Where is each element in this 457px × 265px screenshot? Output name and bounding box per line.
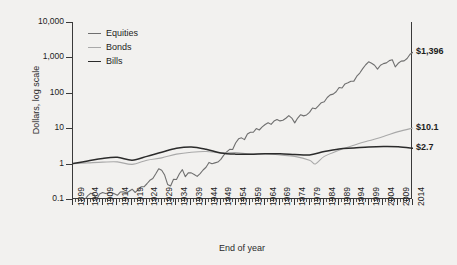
x-tick-label: 1944 — [209, 187, 219, 206]
legend-swatch-icon — [88, 33, 101, 34]
x-tick-label: 1904 — [90, 187, 100, 206]
x-major-tick — [131, 199, 132, 205]
x-major-tick — [87, 199, 88, 205]
x-tick-label: 1974 — [297, 187, 307, 206]
x-tick-label: 1934 — [179, 187, 189, 206]
x-major-tick — [294, 199, 295, 205]
x-major-tick — [249, 199, 250, 205]
x-major-tick — [146, 199, 147, 205]
x-major-tick — [175, 199, 176, 205]
legend-label: Bonds — [106, 41, 132, 53]
series-line-bills — [73, 146, 413, 163]
x-tick-label: 1909 — [105, 187, 115, 206]
x-tick-label: 1979 — [312, 187, 322, 206]
legend-label: Bills — [106, 55, 123, 67]
x-tick-label: 1984 — [327, 187, 337, 206]
x-major-tick — [368, 199, 369, 205]
x-major-tick — [190, 199, 191, 205]
x-tick-label: 1994 — [356, 187, 366, 206]
x-major-tick — [397, 199, 398, 205]
x-tick-label: 2009 — [401, 187, 411, 206]
x-tick-label: 1929 — [164, 187, 174, 206]
x-tick-label: 1964 — [268, 187, 278, 206]
x-major-tick — [220, 199, 221, 205]
y-tick-label: 100 — [50, 87, 64, 97]
x-major-tick — [309, 199, 310, 205]
legend-item-bills[interactable]: Bills — [88, 55, 138, 67]
legend-label: Equities — [106, 27, 138, 39]
x-tick-label: 1919 — [135, 187, 145, 206]
y-tick-label: 10,000 — [38, 16, 64, 26]
end-label-bills: $2.7 — [416, 142, 434, 152]
x-major-tick — [161, 199, 162, 205]
x-major-tick — [338, 199, 339, 205]
chart-legend: EquitiesBondsBills — [88, 27, 138, 69]
x-tick-label: 1954 — [238, 187, 248, 206]
x-tick-label: 1959 — [253, 187, 263, 206]
x-axis-title: End of year — [72, 243, 412, 253]
x-major-tick — [279, 199, 280, 205]
y-tick-label: 1 — [59, 158, 64, 168]
x-tick-label: 1924 — [149, 187, 159, 206]
x-major-tick — [235, 199, 236, 205]
x-major-tick — [323, 199, 324, 205]
y-tick-label: 0.1 — [52, 193, 64, 203]
y-tick-label: 10 — [55, 122, 64, 132]
x-tick-label: 1949 — [223, 187, 233, 206]
x-major-tick — [353, 199, 354, 205]
x-major-tick — [264, 199, 265, 205]
x-tick-label: 2014 — [416, 187, 426, 206]
x-tick-label: 1969 — [282, 187, 292, 206]
legend-swatch-icon — [88, 47, 101, 48]
x-major-tick — [116, 199, 117, 205]
end-label-bonds: $10.1 — [416, 122, 439, 132]
x-major-tick — [102, 199, 103, 205]
x-tick-label: 1989 — [342, 187, 352, 206]
legend-swatch-icon — [88, 61, 101, 62]
y-tick-label: 1,000 — [43, 51, 64, 61]
x-major-tick — [205, 199, 206, 205]
x-major-tick — [412, 199, 413, 205]
chart-figure: Dollars, log scale 10,0001,0001001010.1 … — [0, 0, 457, 265]
end-label-equities: $1,396 — [416, 46, 444, 56]
x-tick-label: 1899 — [76, 187, 86, 206]
series-line-equities — [73, 52, 413, 199]
x-tick-label: 1999 — [371, 187, 381, 206]
legend-item-bonds[interactable]: Bonds — [88, 41, 138, 53]
x-tick-label: 1939 — [194, 187, 204, 206]
y-axis-title: Dollars, log scale — [31, 40, 41, 160]
x-major-tick — [72, 199, 73, 205]
x-tick-label: 2004 — [386, 187, 396, 206]
legend-item-equities[interactable]: Equities — [88, 27, 138, 39]
x-tick-label: 1914 — [120, 187, 130, 206]
x-major-tick — [382, 199, 383, 205]
x-axis-tick-labels: 1899190419091914191919241929193419391944… — [72, 206, 412, 240]
